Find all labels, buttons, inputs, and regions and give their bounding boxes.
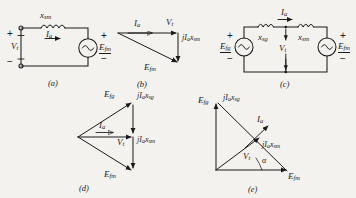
label-b-efm: Efm (144, 63, 156, 73)
label-a-right-minus: − (101, 54, 107, 64)
label-b-ia-sub: a (137, 21, 140, 28)
label-e-efg-sub: fg (204, 98, 209, 105)
label-a-xsm-sub: sm (44, 13, 51, 20)
panel-label-c: (c) (280, 79, 289, 89)
label-e-jiaxsm-s2: sm (273, 143, 280, 149)
label-c-left-plus: + (227, 31, 233, 41)
label-a-right-plus: + (101, 31, 107, 41)
label-d-jiaxsg-s2: sg (148, 94, 153, 100)
label-a-vt: Vt (11, 42, 18, 52)
label-c-ia-sub: a (284, 10, 287, 17)
label-d-jiaxsm: jIaxsm (137, 136, 155, 144)
panel-label-e: (e) (248, 184, 257, 194)
label-d-efg-sub: fg (110, 92, 115, 99)
label-b-efm-sub: fm (150, 65, 157, 72)
label-e-efm: Efm (288, 172, 300, 182)
label-c-efm: Efm (338, 42, 350, 53)
label-c-xsg: xsg (258, 33, 268, 43)
label-d-efm: Efm (104, 170, 116, 180)
label-e-ia-sub: a (260, 117, 263, 124)
label-a-ia: Ia (46, 30, 52, 40)
label-e-efg: Efg (198, 96, 209, 106)
label-c-efm-sub: fm (344, 44, 351, 51)
panel-label-a: (a) (48, 78, 58, 88)
figure-linework (0, 0, 356, 198)
figure-plate: xsm Vt Ia Efm + − + − (a) Ia Vt jIaxsm E… (0, 0, 356, 198)
label-e-vt-sub: t (249, 154, 251, 161)
label-a-ia-sub: a (49, 32, 52, 39)
label-e-alpha: α (262, 157, 266, 165)
label-d-vt: Vt (117, 138, 124, 148)
label-c-vt-sub: t (285, 46, 287, 53)
label-e-jiaxsg: jIaxsg (223, 94, 240, 102)
label-c-efg-sub: fg (226, 44, 231, 51)
label-c-efg: Efg (220, 42, 231, 53)
label-d-efm-sub: fm (110, 172, 117, 179)
label-d-jiaxsm-s2: sm (148, 138, 155, 144)
label-a-left-minus: − (7, 57, 13, 67)
label-c-vt: Vt (279, 44, 286, 54)
label-b-jiaxsm-s2: sm (193, 36, 200, 42)
label-b-vt-sub: t (172, 20, 174, 27)
label-b-ia: Ia (134, 19, 140, 29)
label-e-ia: Ia (257, 115, 263, 125)
label-c-left-minus: − (227, 54, 233, 64)
label-c-xsm: xsm (298, 33, 309, 43)
panel-label-b: (b) (137, 79, 147, 89)
label-a-xsm: xsm (40, 11, 51, 21)
label-e-vt: Vt (243, 152, 250, 162)
label-d-jiaxsg: jIaxsg (137, 92, 154, 100)
label-d-efg: Efg (104, 90, 115, 100)
panel-label-d: (d) (79, 183, 89, 193)
label-d-ia: Ia (99, 121, 105, 131)
label-c-right-minus: − (340, 54, 346, 64)
label-d-ia-sub: a (102, 123, 105, 130)
label-e-jiaxsm: jIaxsm (262, 141, 280, 149)
label-a-left-plus: + (7, 29, 13, 39)
label-b-jiaxsm: jIaxsm (182, 34, 200, 42)
label-e-efm-sub: fm (294, 174, 301, 181)
label-c-ia: Ia (281, 8, 287, 18)
label-b-vt: Vt (166, 18, 173, 28)
label-d-vt-sub: t (123, 140, 125, 147)
label-c-xsm-sub: sm (302, 35, 309, 42)
label-c-xsg-sub: sg (262, 35, 268, 42)
label-a-vt-sub: t (17, 44, 19, 51)
label-e-jiaxsg-s2: sg (234, 96, 239, 102)
label-c-right-plus: + (340, 31, 346, 41)
label-a-efm-sub: fm (105, 45, 112, 52)
